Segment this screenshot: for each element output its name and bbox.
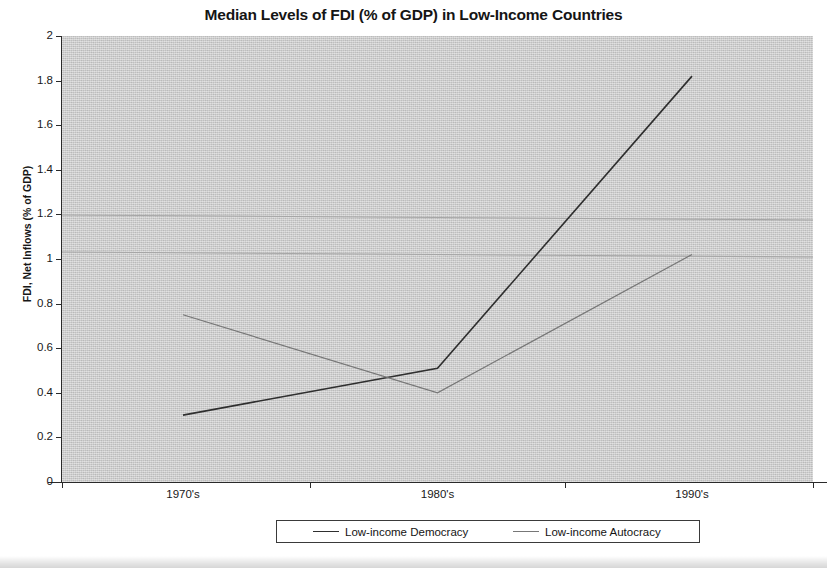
y-tick-0.8: 0.8	[0, 298, 62, 310]
x-tick-label-1970s: 1970's	[123, 488, 243, 500]
x-tick-mark	[310, 482, 311, 488]
y-tick-0.4: 0.4	[0, 387, 62, 399]
y-tick-mark	[56, 170, 62, 171]
y-tick-label: 0.8	[1, 298, 62, 309]
legend-label-autocracy: Low-income Autocracy	[545, 526, 661, 538]
legend-entry-autocracy[interactable]: Low-income Autocracy	[513, 521, 661, 542]
x-axis-line	[48, 482, 827, 483]
chart-figure: Median Levels of FDI (% of GDP) in Low-I…	[0, 0, 827, 568]
y-tick-1.8: 1.8	[0, 75, 62, 87]
y-tick-1.4: 1.4	[0, 164, 62, 176]
y-tick-0.6: 0.6	[0, 342, 62, 354]
legend-entry-democracy[interactable]: Low-income Democracy	[313, 521, 468, 542]
y-tick-label: 2	[1, 30, 62, 41]
y-tick-mark	[56, 259, 62, 260]
plot-svg	[62, 36, 813, 482]
y-tick-1.6: 1.6	[0, 119, 62, 131]
series-line-low-income-democracy	[183, 76, 692, 415]
y-tick-label: 0.2	[1, 431, 62, 442]
y-tick-label: 1.6	[1, 119, 62, 130]
y-tick-mark	[56, 393, 62, 394]
y-tick-1.2: 1.2	[0, 208, 62, 220]
series-line-low-income-autocracy	[183, 255, 692, 393]
y-tick-label: 1.2	[1, 208, 62, 219]
legend-line-swatch-democracy	[313, 531, 339, 532]
scan-edge-shadow	[0, 556, 827, 568]
y-tick-mark	[56, 304, 62, 305]
y-tick-label: 0	[1, 476, 62, 487]
y-tick-0: 0	[0, 476, 62, 488]
y-tick-0.2: 0.2	[0, 431, 62, 443]
x-tick-mark	[565, 482, 566, 488]
y-tick-label: 1	[1, 253, 62, 264]
y-tick-mark	[56, 214, 62, 215]
y-tick-mark	[56, 437, 62, 438]
x-tick-mark	[62, 482, 63, 488]
legend-label-democracy: Low-income Democracy	[345, 526, 468, 538]
plot-area	[62, 36, 813, 482]
y-tick-1: 1	[0, 253, 62, 265]
x-tick-mark	[813, 482, 814, 488]
y-axis-ticks: 00.20.40.60.811.21.41.61.82	[0, 0, 62, 520]
y-tick-label: 1.8	[1, 75, 62, 86]
chart-title: Median Levels of FDI (% of GDP) in Low-I…	[0, 6, 827, 24]
y-tick-label: 0.4	[1, 387, 62, 398]
chart-legend: Low-income Democracy Low-income Autocrac…	[276, 520, 700, 543]
scan-artifact-lines	[62, 215, 813, 257]
y-tick-2: 2	[0, 30, 62, 42]
y-tick-label: 1.4	[1, 164, 62, 175]
legend-line-swatch-autocracy	[513, 531, 539, 532]
y-tick-mark	[56, 36, 62, 37]
y-tick-mark	[56, 81, 62, 82]
x-tick-label-1990s: 1990's	[632, 488, 752, 500]
y-tick-label: 0.6	[1, 342, 62, 353]
series-lines	[183, 76, 692, 415]
x-tick-label-1980s: 1980's	[378, 488, 498, 500]
y-tick-mark	[56, 348, 62, 349]
y-tick-mark	[56, 125, 62, 126]
